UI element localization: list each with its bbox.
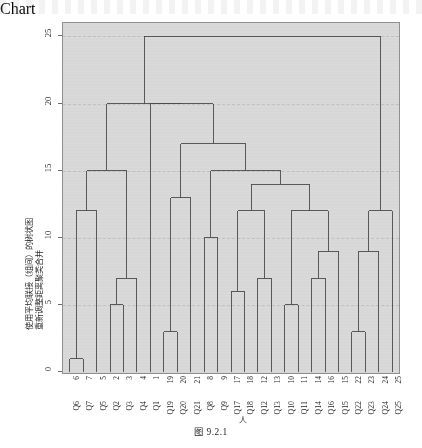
y-axis-title-line2: 重新调整距离聚类合并 xyxy=(35,250,44,330)
y-tick-label-25: 25 xyxy=(40,28,56,38)
y-tick-label-0: 0 xyxy=(40,364,56,374)
y-tick-label-20: 20 xyxy=(40,96,56,106)
y-tick-label-10: 10 xyxy=(40,230,56,240)
page-bleed-artifact xyxy=(0,0,422,14)
plot-area xyxy=(62,22,400,374)
figure-dendrogram: 0510152025 使用平均联接（组间）的树状图 重新调整距离聚类合并 6Q6… xyxy=(0,0,422,448)
figure-caption: 图 9.2.1 xyxy=(0,424,422,438)
y-tick-label-15: 15 xyxy=(40,163,56,173)
dendrogram-tree xyxy=(63,23,399,373)
